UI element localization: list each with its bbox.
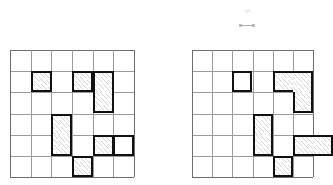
shape-outline-edge xyxy=(293,71,313,73)
shape-outline-edge xyxy=(72,156,93,158)
shape-cell xyxy=(51,135,72,156)
shape-outline-edge xyxy=(112,92,114,113)
shape-outline-edge xyxy=(273,71,275,92)
shape-cell xyxy=(93,71,114,92)
shape-outline-edge xyxy=(293,135,313,137)
left-grid-shapes xyxy=(10,50,134,177)
right-grid xyxy=(192,50,313,177)
shape-outline-edge xyxy=(232,71,252,73)
shape-outline-edge xyxy=(31,90,52,92)
shape-outline-edge xyxy=(93,135,95,156)
grid-line-vertical xyxy=(134,50,135,177)
shape-outline-edge xyxy=(293,111,313,113)
shape-cell xyxy=(253,135,273,156)
shape-outline-edge xyxy=(113,135,134,137)
shape-outline-edge xyxy=(93,71,114,73)
shape-outline-edge xyxy=(271,135,273,156)
shape-cell xyxy=(51,114,72,135)
shape-outline-edge xyxy=(232,71,234,92)
shape-outline-edge xyxy=(273,156,293,158)
shape-outline-edge xyxy=(113,154,134,156)
shape-outline-edge xyxy=(313,135,333,137)
shape-outline-edge xyxy=(72,71,74,92)
shape-outline-edge xyxy=(31,71,33,92)
shape-outline-edge xyxy=(293,92,295,113)
shape-outline-edge xyxy=(273,175,293,177)
shape-cell xyxy=(93,135,114,156)
shape-outline-edge xyxy=(132,135,134,156)
shape-outline-edge xyxy=(93,135,114,137)
shape-outline-edge xyxy=(50,71,52,92)
shape-outline-edge xyxy=(93,111,114,113)
shape-outline-edge xyxy=(51,114,72,116)
left-grid xyxy=(10,50,134,177)
annotation-underline-mark xyxy=(240,25,254,26)
shape-outline-edge xyxy=(72,156,74,177)
shape-outline-edge xyxy=(70,114,72,135)
shape-cell xyxy=(31,71,52,92)
shape-outline-edge xyxy=(70,135,72,156)
shape-outline-edge xyxy=(253,154,273,156)
shape-outline-edge xyxy=(253,114,255,135)
shape-cell xyxy=(293,135,313,156)
right-grid-shapes xyxy=(192,50,313,177)
shape-outline-edge xyxy=(72,90,93,92)
shape-cell xyxy=(313,135,333,156)
shape-outline-edge xyxy=(72,175,93,177)
shape-outline-edge xyxy=(273,90,293,92)
shape-outline-edge xyxy=(93,92,95,113)
shape-outline-edge xyxy=(51,135,53,156)
shape-cell xyxy=(253,114,273,135)
shape-cell xyxy=(293,71,313,92)
shape-outline-edge xyxy=(250,71,252,92)
shape-outline-edge xyxy=(113,135,115,156)
grid-line-horizontal xyxy=(192,177,313,178)
shape-outline-edge xyxy=(51,154,72,156)
shape-outline-edge xyxy=(112,71,114,92)
shape-outline-edge xyxy=(311,71,313,92)
shape-outline-edge xyxy=(313,154,333,156)
shape-outline-edge xyxy=(271,114,273,135)
shape-cell xyxy=(93,92,114,113)
grid-line-horizontal xyxy=(10,177,134,178)
shape-outline-edge xyxy=(72,71,93,73)
shape-cell xyxy=(273,71,293,92)
shape-outline-edge xyxy=(291,156,293,177)
shape-outline-edge xyxy=(293,135,295,156)
shape-outline-edge xyxy=(232,90,252,92)
shape-outline-edge xyxy=(273,71,293,73)
shape-cell xyxy=(293,92,313,113)
shape-outline-edge xyxy=(253,135,255,156)
shape-cell xyxy=(232,71,252,92)
shape-cell xyxy=(72,156,93,177)
grid-line-vertical xyxy=(313,50,314,177)
shape-outline-edge xyxy=(273,156,275,177)
shape-outline-edge xyxy=(93,71,95,92)
shape-outline-edge xyxy=(93,154,114,156)
shape-outline-edge xyxy=(311,92,313,113)
shape-outline-edge xyxy=(253,114,273,116)
shape-outline-edge xyxy=(31,71,52,73)
pencil-annotation-mark: 5 xyxy=(245,10,252,13)
shape-outline-edge xyxy=(51,114,53,135)
shape-outline-edge xyxy=(293,154,313,156)
shape-cell xyxy=(113,135,134,156)
shape-outline-edge xyxy=(91,156,93,177)
shape-cell xyxy=(273,156,293,177)
shape-cell xyxy=(72,71,93,92)
